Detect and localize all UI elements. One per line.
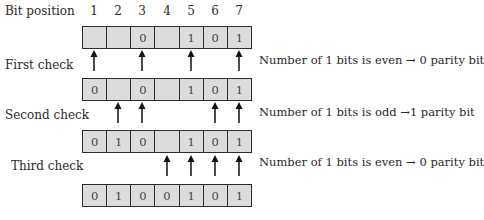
bit-cell: 1 <box>180 79 204 100</box>
up-arrow-icon <box>89 50 99 71</box>
bit-cell: 1 <box>228 79 251 100</box>
position-5: 5 <box>179 4 203 18</box>
position-1: 1 <box>82 4 106 18</box>
bit-cell: 0 <box>131 27 155 48</box>
bit-row-3: 0 1 0 1 0 1 <box>82 130 252 153</box>
second-check-result: Number of 1 bits is odd →1 parity bit <box>259 105 475 119</box>
up-arrow-icon <box>210 102 220 123</box>
up-arrow-icon <box>186 50 196 71</box>
bit-cell: 0 <box>204 185 228 206</box>
position-3: 3 <box>130 4 154 18</box>
position-6: 6 <box>203 4 227 18</box>
third-check-label: Third check <box>11 159 83 173</box>
position-2: 2 <box>106 4 130 18</box>
bit-cell: 0 <box>83 131 107 152</box>
up-arrow-icon <box>234 155 244 176</box>
bit-cell: 1 <box>228 27 251 48</box>
bit-cell: 1 <box>180 185 204 206</box>
up-arrow-icon <box>162 155 172 176</box>
up-arrow-icon <box>210 155 220 176</box>
first-check-result: Number of 1 bits is even → 0 parity bit <box>259 53 484 67</box>
bit-cell: 0 <box>83 79 107 100</box>
bit-cell <box>83 27 107 48</box>
second-check-label: Second check <box>5 108 89 122</box>
bit-cell: 1 <box>107 185 131 206</box>
first-check-label: First check <box>5 58 73 72</box>
bit-cell: 0 <box>204 131 228 152</box>
bit-row-2: 0 0 1 0 1 <box>82 78 252 101</box>
position-4: 4 <box>155 4 179 18</box>
up-arrow-icon <box>234 50 244 71</box>
bit-cell: 0 <box>204 27 228 48</box>
bit-cell: 1 <box>107 131 131 152</box>
bit-row-4: 0 1 0 0 1 0 1 <box>82 184 252 207</box>
bit-cell: 1 <box>228 131 251 152</box>
bit-cell: 1 <box>180 131 204 152</box>
bit-row-1: 0 1 0 1 <box>82 26 252 49</box>
bit-cell: 0 <box>131 185 155 206</box>
bit-cell: 1 <box>180 27 204 48</box>
up-arrow-icon <box>234 102 244 123</box>
bit-cell: 0 <box>83 185 107 206</box>
bit-cell <box>107 79 131 100</box>
up-arrow-icon <box>186 155 196 176</box>
bit-cell <box>155 79 179 100</box>
bit-cell <box>155 131 179 152</box>
third-check-result: Number of 1 bits is even → 0 parity bit <box>259 155 484 169</box>
up-arrow-icon <box>137 102 147 123</box>
position-7: 7 <box>227 4 251 18</box>
bit-cell: 1 <box>228 185 251 206</box>
bit-cell: 0 <box>131 131 155 152</box>
up-arrow-icon <box>137 50 147 71</box>
up-arrow-icon <box>113 102 123 123</box>
bit-cell: 0 <box>131 79 155 100</box>
bit-cell: 0 <box>204 79 228 100</box>
bit-cell: 0 <box>155 185 179 206</box>
bit-position-label: Bit position <box>5 4 75 18</box>
bit-cell <box>155 27 179 48</box>
bit-cell <box>107 27 131 48</box>
